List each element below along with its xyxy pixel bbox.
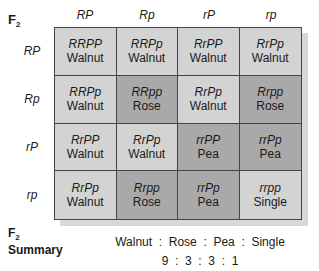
punnett-cell: RrPPWalnut xyxy=(55,124,117,172)
punnett-cell: rrppSingle xyxy=(240,171,302,219)
column-header: rP xyxy=(178,8,240,22)
summary-label: F2 Summary xyxy=(8,227,63,257)
punnett-cell: rrPpPea xyxy=(240,124,302,172)
punnett-cell: RrPpWalnut xyxy=(178,76,240,124)
f2-title: F2 xyxy=(8,12,20,29)
punnett-cell: RRPpWalnut xyxy=(55,76,117,124)
row-header: rP xyxy=(20,140,44,154)
punnett-cell: RrPpWalnut xyxy=(117,124,179,172)
ratio-values: 9 : 3 : 3 : 1 xyxy=(100,254,300,268)
phenotype-list: Walnut : Rose : Pea : Single xyxy=(100,235,300,249)
punnett-cell: RrppRose xyxy=(117,171,179,219)
punnett-cell: RRppRose xyxy=(117,76,179,124)
punnett-cell: RrPpWalnut xyxy=(55,171,117,219)
punnett-cell: RrppRose xyxy=(240,76,302,124)
punnett-cell: RrPpWalnut xyxy=(240,28,302,76)
punnett-cell: RRPPWalnut xyxy=(55,28,117,76)
punnett-cell: rrPpPea xyxy=(178,171,240,219)
row-header: rp xyxy=(20,188,44,202)
punnett-cell: RRPpWalnut xyxy=(117,28,179,76)
column-header: RP xyxy=(54,8,116,22)
column-header: rp xyxy=(240,8,302,22)
punnett-square: RRPPWalnut RRPpWalnut RrPPWalnut RrPpWal… xyxy=(54,27,302,220)
punnett-cell: rrPPPea xyxy=(178,124,240,172)
row-header: Rp xyxy=(20,92,44,106)
punnett-cell: RrPPWalnut xyxy=(178,28,240,76)
row-header: RP xyxy=(20,44,44,58)
column-header: Rp xyxy=(116,8,178,22)
